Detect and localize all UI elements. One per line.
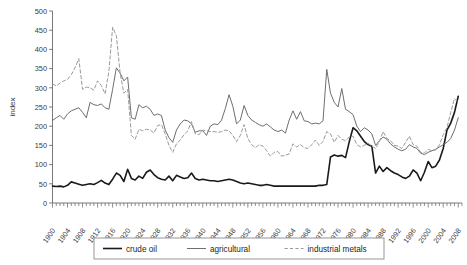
legend-label-crude-oil: crude oil [126,245,157,254]
chart-canvas: 050100150200250300350400450500 190019041… [0,0,467,265]
series-line-crude-oil [53,96,459,187]
series-line-industrial-metals [53,27,459,156]
commodity-price-index-chart: 050100150200250300350400450500 190019041… [0,0,467,265]
x-tick-label: 2000 [416,226,433,244]
x-tick-label: 1992 [386,226,403,244]
y-tick-label: 500 [35,7,47,16]
x-tick-label: 2008 [446,226,463,244]
x-tick-label: 2004 [431,226,448,244]
series-line-agricultural [53,68,459,155]
x-tick-label: 1900 [41,226,58,244]
y-axis-label-text: index [8,97,17,116]
x-tick-label: 1904 [56,226,73,244]
x-tick-label: 1908 [71,226,88,244]
y-tick-label: 450 [35,26,47,35]
y-tick-label: 200 [35,122,47,131]
legend-label-agricultural: agricultural [210,245,250,254]
y-tick-label: 50 [39,180,47,189]
x-tick-label: 1996 [401,226,418,244]
y-tick-label: 100 [35,160,47,169]
legend-label-industrial-metals: industrial metals [308,245,367,254]
y-tick-label: 350 [35,64,47,73]
y-axis: 050100150200250300350400450500 [35,7,53,208]
chart-legend: crude oilagriculturalindustrial metals [94,238,384,259]
y-axis-title: index [8,97,17,116]
y-tick-label: 250 [35,103,47,112]
y-tick-label: 300 [35,84,47,93]
series-lines [53,27,459,187]
y-tick-label: 400 [35,45,47,54]
y-tick-label: 0 [43,199,47,208]
y-tick-label: 150 [35,141,47,150]
